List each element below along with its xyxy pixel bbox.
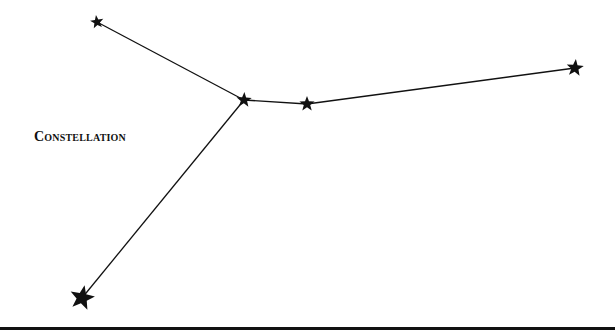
constellation-stars <box>71 15 584 310</box>
star-icon <box>299 96 314 110</box>
connector-line <box>97 22 244 100</box>
connector-line <box>307 68 575 104</box>
star-icon <box>90 15 103 28</box>
bottom-rule-divider <box>0 327 615 330</box>
constellation-diagram <box>0 0 615 335</box>
star-icon <box>567 59 584 76</box>
constellation-label: Constellation <box>34 129 126 145</box>
star-icon <box>71 285 95 310</box>
star-icon <box>237 92 252 107</box>
constellation-lines <box>82 22 575 298</box>
connector-line <box>244 100 307 104</box>
